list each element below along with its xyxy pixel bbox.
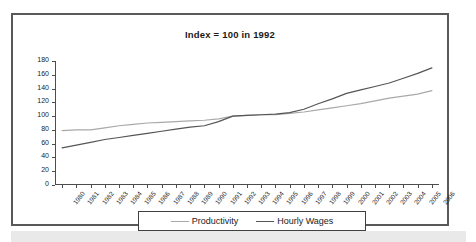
x-tick-label: 1986 [157,190,171,206]
x-tick-mark [261,185,262,188]
x-tick-mark [190,185,191,188]
x-tick-label: 2004 [413,190,427,206]
y-tick-label: 140 [37,84,49,91]
y-tick-label: 20 [41,166,49,173]
chart-legend: ProductivityHourly Wages [138,211,366,231]
x-tick-mark [105,185,106,188]
x-tick-mark [76,185,77,188]
legend-label: Productivity [192,216,239,226]
x-tick-mark [204,185,205,188]
x-tick-label: 1999 [342,190,356,206]
x-tick-label: 1982 [100,190,114,206]
x-tick-mark [361,185,362,188]
y-tick-label: 60 [41,139,49,146]
y-tick-label: 40 [41,152,49,159]
x-tick-mark [133,185,134,188]
x-tick-mark [147,185,148,188]
x-tick-label: 1996 [299,190,313,206]
x-tick-label: 2003 [399,190,413,206]
x-tick-mark [91,185,92,188]
x-tick-mark [347,185,348,188]
y-tick-label: 100 [37,111,49,118]
x-tick-mark [418,185,419,188]
x-tick-label: 1993 [257,190,271,206]
y-tick-label: 180 [37,56,49,63]
legend-swatch-line-icon [256,221,274,222]
legend-entry-hourly-wages[interactable]: Hourly Wages [256,216,333,226]
x-tick-label: 2000 [356,190,370,206]
x-tick-label: 2001 [370,190,384,206]
x-tick-label: 1981 [86,190,100,206]
series-line-productivity [62,91,432,131]
x-tick-mark [375,185,376,188]
x-tick-label: 1992 [242,190,256,206]
x-tick-mark [62,185,63,188]
x-tick-mark [290,185,291,188]
x-tick-mark [403,185,404,188]
x-tick-label: 1983 [114,190,128,206]
x-tick-label: 1997 [313,190,327,206]
x-tick-label: 1980 [72,190,86,206]
chart-title: Index = 100 in 1992 [13,29,447,40]
x-tick-label: 1998 [328,190,342,206]
x-tick-mark [233,185,234,188]
x-tick-label: 1989 [200,190,214,206]
y-tick-label: 0 [45,180,49,187]
x-tick-label: 1987 [171,190,185,206]
x-tick-label: 1985 [143,190,157,206]
x-tick-label: 1995 [285,190,299,206]
chart-figure: Index = 100 in 1992 02040608010012014016… [11,13,449,226]
y-tick-label: 160 [37,70,49,77]
legend-label: Hourly Wages [277,216,333,226]
footer-strip [11,231,466,242]
x-tick-mark [247,185,248,188]
x-tick-mark [432,185,433,188]
x-tick-mark [332,185,333,188]
y-tick-mark [52,185,55,186]
x-tick-mark [304,185,305,188]
x-tick-label: 2002 [385,190,399,206]
x-tick-label: 1984 [129,190,143,206]
x-tick-mark [275,185,276,188]
x-tick-mark [162,185,163,188]
x-tick-label: 2006 [441,190,455,206]
x-tick-label: 1994 [271,190,285,206]
x-tick-mark [389,185,390,188]
x-tick-mark [219,185,220,188]
series-line-hourly-wages [62,68,432,148]
x-tick-label: 1991 [228,190,242,206]
series-lines [55,61,439,185]
x-tick-label: 1988 [185,190,199,206]
x-tick-mark [119,185,120,188]
x-tick-label: 2005 [427,190,441,206]
legend-swatch-line-icon [171,221,189,222]
x-tick-mark [176,185,177,188]
x-tick-label: 1990 [214,190,228,206]
plot-area: 020406080100120140160180 198019811982198… [55,61,439,185]
y-tick-label: 120 [37,97,49,104]
x-tick-mark [318,185,319,188]
legend-entry-productivity[interactable]: Productivity [171,216,239,226]
plot-inner: 020406080100120140160180 198019811982198… [55,61,439,185]
y-tick-label: 80 [41,125,49,132]
